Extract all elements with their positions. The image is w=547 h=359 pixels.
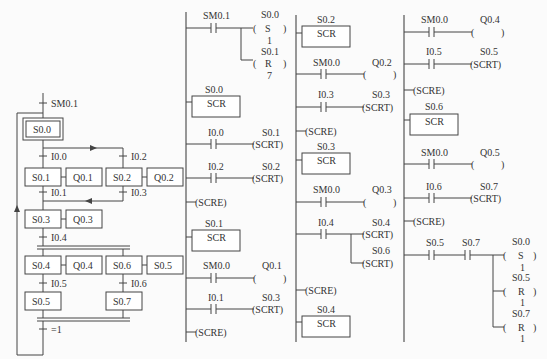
contact-label: SM0.1 [203, 10, 230, 21]
svg-text:(: ( [471, 27, 475, 39]
step-s0-7: S0.7 [113, 296, 131, 307]
scr-box: SCR [317, 318, 336, 329]
coil-address: S0.4 [372, 217, 390, 228]
svg-text:(: ( [503, 322, 507, 334]
contact-label: SM0.0 [421, 14, 448, 25]
action-q0-3: Q0.3 [73, 214, 93, 225]
coil-count: 7 [267, 70, 272, 81]
contact-label: I0.2 [208, 161, 224, 172]
svg-text:): ) [393, 197, 396, 209]
scr-address: S0.4 [317, 304, 335, 315]
contact-label: I0.3 [318, 89, 334, 100]
coil-address: Q0.2 [372, 57, 392, 68]
ladder-column-2: S0.2 SCR SM0.0 Q0.2 () I0.3 S0.3 (SCRT) … [296, 14, 396, 342]
coil-address: S0.0 [261, 9, 279, 20]
coil-address: Q0.1 [262, 260, 282, 271]
transition-label: I0.5 [51, 278, 67, 289]
coil-address: S0.7 [512, 308, 530, 319]
coil-count: 1 [520, 333, 525, 344]
action-q0-2: Q0.2 [154, 172, 174, 183]
transition-label: I0.0 [51, 151, 67, 162]
coil-type: S [265, 23, 271, 34]
scre-coil: (SCRE) [305, 285, 337, 297]
coil-type: R [518, 322, 525, 333]
coil-address: S0.1 [262, 127, 280, 138]
svg-text:(: ( [471, 159, 475, 171]
scrt-coil: (SCRT) [362, 258, 393, 270]
svg-text:): ) [283, 58, 286, 70]
svg-text:(: ( [253, 273, 257, 285]
coil-address: S0.5 [512, 272, 530, 283]
arrow-right-icon [90, 145, 97, 151]
scre-coil: (SCRE) [195, 197, 227, 209]
scre-coil: (SCRE) [305, 126, 337, 138]
arrow-up-icon [14, 205, 20, 212]
coil-address: S0.5 [480, 46, 498, 57]
scr-address: S0.6 [425, 101, 443, 112]
sfc-ladder-diagram: SM0.1 S0.0 I0.0 I0.2 S0.1 Q0.1 S0.2 Q0.2 [0, 0, 547, 359]
scre-coil: (SCRE) [413, 85, 445, 97]
coil-address: S0.6 [372, 245, 390, 256]
contact-label: I0.0 [208, 127, 224, 138]
scrt-coil: (SCRT) [362, 229, 393, 241]
contact-label: I0.6 [426, 181, 442, 192]
svg-text:): ) [501, 159, 504, 171]
coil-type: R [518, 286, 525, 297]
coil-address: S0.7 [480, 181, 498, 192]
coil-address: S0.3 [262, 292, 280, 303]
svg-text:(: ( [363, 69, 367, 81]
coil-address: Q0.3 [372, 184, 392, 195]
sfc-chart: SM0.1 S0.0 I0.0 I0.2 S0.1 Q0.1 S0.2 Q0.2 [14, 93, 183, 355]
contact-label: SM0.0 [203, 260, 230, 271]
arrow-left-icon [85, 198, 92, 204]
action-q0-4: Q0.4 [73, 260, 93, 271]
contact-label: S0.5 [426, 237, 444, 248]
transition-label: I0.1 [51, 187, 67, 198]
scr-box: SCR [425, 116, 444, 127]
scr-address: S0.0 [205, 84, 223, 95]
action-q0-1: Q0.1 [73, 172, 93, 183]
coil-address: S0.3 [372, 89, 390, 100]
scr-address: S0.2 [317, 14, 335, 25]
contact-label: SM0.0 [313, 184, 340, 195]
contact-label: S0.7 [462, 237, 480, 248]
coil-type: R [265, 58, 272, 69]
scr-box: SCR [207, 232, 226, 243]
svg-text:): ) [533, 322, 536, 334]
scr-box: SCR [207, 98, 226, 109]
contact-label: SM0.0 [421, 147, 448, 158]
step-s0-0: S0.0 [33, 124, 51, 135]
coil-count: 1 [267, 35, 272, 46]
svg-text:): ) [283, 273, 286, 285]
step-s0-1: S0.1 [32, 172, 50, 183]
scrt-coil: (SCRT) [470, 193, 501, 205]
step-s0-4: S0.4 [32, 260, 50, 271]
action-s0-5: S0.5 [154, 260, 172, 271]
svg-text:(: ( [253, 23, 257, 35]
scr-box: SCR [317, 155, 336, 166]
scre-coil: (SCRE) [413, 216, 445, 228]
coil-address: S0.1 [261, 46, 279, 57]
step-s0-5: S0.5 [32, 296, 50, 307]
svg-text:): ) [501, 27, 504, 39]
coil-type: S [518, 250, 524, 261]
scre-coil: (SCRE) [195, 327, 227, 339]
coil-count: 1 [520, 297, 525, 308]
scrt-coil: (SCRT) [252, 304, 283, 316]
svg-text:): ) [393, 69, 396, 81]
ladder-column-3: SM0.0 Q0.4 () I0.5 S0.5 (SCRT) (SCRE) S0… [404, 14, 536, 344]
step-s0-6: S0.6 [113, 260, 131, 271]
svg-text:(: ( [363, 197, 367, 209]
transition-label: I0.3 [131, 187, 147, 198]
svg-text:(: ( [503, 250, 507, 262]
step-s0-3: S0.3 [32, 214, 50, 225]
scrt-coil: (SCRT) [362, 102, 393, 114]
coil-address: Q0.5 [480, 147, 500, 158]
svg-text:): ) [283, 23, 286, 35]
ladder-column-1: SM0.1 S0.0 (S) 1 S0.1 (R) 7 S0.0 SCR I0.… [186, 9, 286, 342]
contact-label: I0.5 [426, 46, 442, 57]
transition-label: I0.4 [51, 232, 67, 243]
transition-label: I0.2 [131, 151, 147, 162]
transition-label: =1 [51, 324, 62, 335]
scr-address: S0.1 [205, 218, 223, 229]
